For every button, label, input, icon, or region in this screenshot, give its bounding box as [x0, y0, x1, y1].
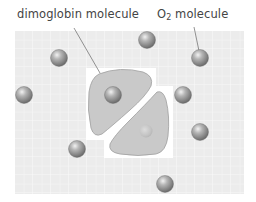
o2-sphere-icon — [16, 87, 33, 104]
o2-sphere-icon — [192, 50, 209, 67]
dimoglobin-label: dimoglobin molecule — [17, 7, 139, 21]
o2-sphere-icon — [69, 141, 86, 158]
empty-binding-site — [140, 125, 153, 138]
o2-sphere-icon — [175, 87, 192, 104]
o2-sphere-icon — [51, 50, 68, 67]
o2-label: O2 molecule — [157, 7, 228, 22]
o2-sphere-icon — [157, 176, 174, 193]
diagram-canvas — [0, 0, 256, 202]
o2-sphere-icon — [139, 32, 156, 49]
o2-sphere-icon — [105, 87, 122, 104]
o2-sphere-icon — [192, 124, 209, 141]
o2-label-prefix: O — [157, 7, 166, 21]
o2-label-suffix: molecule — [171, 7, 228, 21]
dimoglobin-diagram: dimoglobin molecule O2 molecule — [0, 0, 256, 202]
